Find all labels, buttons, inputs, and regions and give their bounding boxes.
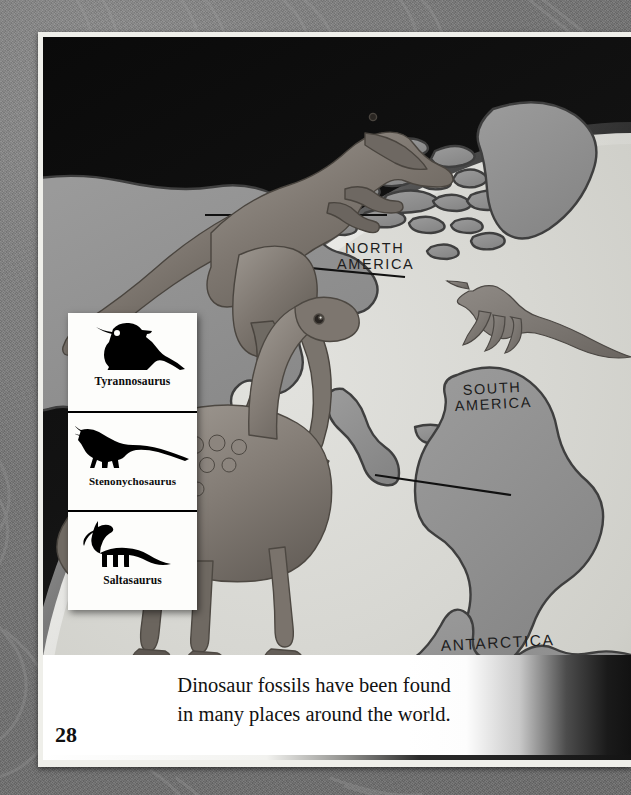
caption-band: 28 Dinosaur fossils have been found in m… bbox=[43, 655, 631, 755]
legend-label-stenonychosaurus: Stenonychosaurus bbox=[89, 475, 176, 487]
book-page: NORTH AMERICA SOUTH AMERICA ANTARCTICA 2… bbox=[0, 0, 631, 795]
dinosaur-legend-card: Tyrannosaurus Stenonychosaurus Saltasaur… bbox=[68, 313, 197, 610]
legend-item-stenonychosaurus: Stenonychosaurus bbox=[68, 411, 197, 511]
map-label-north-america-line2: AMERICA bbox=[337, 256, 414, 272]
legend-label-tyrannosaurus: Tyrannosaurus bbox=[95, 375, 171, 387]
legend-label-saltasaurus: Saltasaurus bbox=[103, 574, 162, 586]
tyrannosaurus-silhouette-icon bbox=[79, 319, 187, 371]
caption-text: Dinosaur fossils have been found in many… bbox=[119, 671, 509, 729]
caption-line-2: in many places around the world. bbox=[119, 700, 509, 729]
stenonychosaurus-silhouette-icon bbox=[75, 419, 191, 471]
saltasaurus-silhouette-icon bbox=[80, 518, 186, 570]
caption-line-1: Dinosaur fossils have been found bbox=[119, 671, 509, 700]
map-label-north-america-line1: NORTH bbox=[345, 240, 404, 256]
legend-item-tyrannosaurus: Tyrannosaurus bbox=[68, 313, 197, 411]
legend-item-saltasaurus: Saltasaurus bbox=[68, 510, 197, 610]
page-number: 28 bbox=[55, 722, 77, 748]
